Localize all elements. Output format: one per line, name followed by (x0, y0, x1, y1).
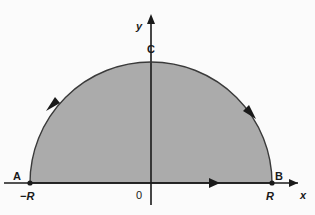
x-axis-arrowhead-icon (289, 179, 298, 187)
origin-label: 0 (136, 190, 142, 201)
contour-diagram-figure: A B C −R R 0 x y (0, 0, 315, 215)
point-label-c: C (147, 44, 155, 55)
x-tick-label-r: R (266, 191, 274, 202)
x-axis-label: x (300, 190, 306, 201)
x-tick-label-minus-r: −R (20, 191, 34, 202)
point-label-a: A (13, 171, 21, 182)
contour-diagram-canvas (0, 0, 315, 215)
y-axis-label: y (136, 21, 142, 32)
point-marker-B (269, 180, 274, 185)
point-label-b: B (275, 171, 283, 182)
y-axis-arrowhead-icon (147, 14, 155, 24)
point-marker-A (27, 180, 32, 185)
